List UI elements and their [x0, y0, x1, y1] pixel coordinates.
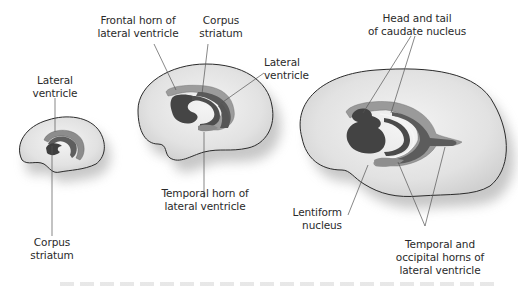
label-medium-corpus-striatum: Corpus striatum	[195, 14, 247, 40]
label-temporal-horn: Temporal horn of lateral ventricle	[150, 187, 260, 213]
label-frontal-horn: Frontal horn of lateral ventricle	[88, 14, 188, 40]
label-medium-lateral-ventricle: Lateral ventricle	[264, 56, 314, 82]
brain-stage-large	[300, 69, 514, 209]
brain-stage-small	[20, 117, 111, 183]
label-lentiform-nucleus: Lentiform nucleus	[272, 206, 342, 232]
label-small-corpus-striatum: Corpus striatum	[26, 236, 78, 262]
cropped-caption-remnant	[60, 282, 500, 286]
label-small-lateral-ventricle: Lateral ventricle	[30, 74, 80, 100]
label-caudate-nucleus: Head and tail of caudate nucleus	[362, 12, 472, 38]
label-temporal-occipital-horns: Temporal and occipital horns of lateral …	[380, 238, 500, 277]
brain-stage-medium	[138, 64, 281, 172]
